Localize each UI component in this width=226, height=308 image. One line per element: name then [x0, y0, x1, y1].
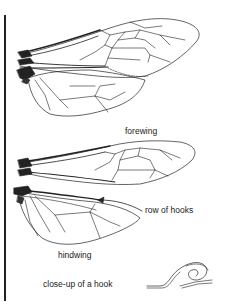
hook-closeup-drawing — [147, 263, 212, 288]
wing-illustration — [0, 0, 226, 308]
label-closeup-of-hook: close-up of a hook — [43, 280, 112, 289]
label-row-of-hooks: row of hooks — [145, 206, 193, 215]
joined-wings — [17, 19, 199, 116]
separated-wings — [14, 141, 195, 244]
label-forewing: forewing — [125, 127, 157, 136]
figure: forewing row of hooks hindwing close-up … — [0, 0, 226, 308]
label-hindwing: hindwing — [58, 251, 92, 260]
